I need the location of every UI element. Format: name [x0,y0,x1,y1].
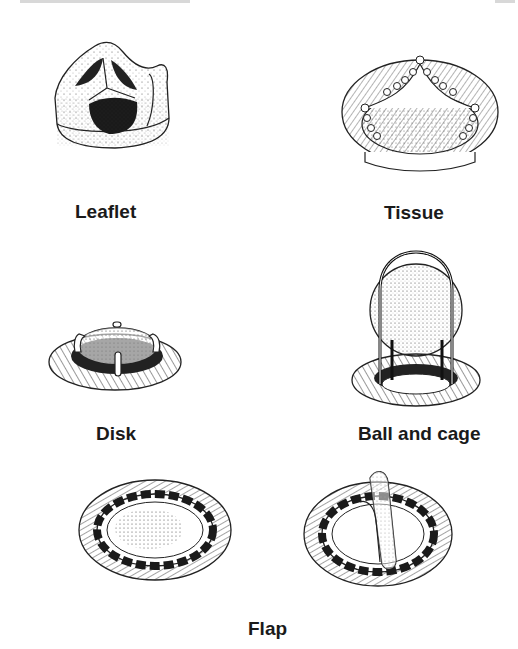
flap-valve-open-illustration [300,460,460,600]
label-disk: Disk [96,424,136,444]
ball-and-cage-valve-illustration [350,250,485,410]
disk-valve-illustration [45,310,185,395]
label-flap: Flap [248,619,287,639]
label-leaflet: Leaflet [75,202,136,222]
leaflet-valve-illustration [45,38,175,158]
label-tissue: Tissue [384,203,444,223]
tissue-valve-illustration [335,50,505,180]
running-head-remnant [20,0,190,3]
label-ball-and-cage: Ball and cage [358,424,481,444]
page-number-remnant [495,0,515,3]
flap-valve-closed-illustration [75,475,235,585]
